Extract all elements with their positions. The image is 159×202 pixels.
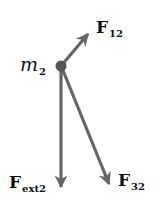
- mass-symbol: m: [20, 53, 38, 75]
- force-label-f32: F32: [118, 172, 145, 189]
- mass-label: m2: [20, 55, 46, 74]
- force-symbol: F: [96, 17, 108, 37]
- force-symbol: F: [118, 170, 130, 190]
- force-arrow-f32: [62, 68, 109, 184]
- force-label-fext2: Fext2: [9, 174, 46, 191]
- force-subscript: 12: [109, 28, 123, 39]
- mass-point: [56, 61, 67, 72]
- force-subscript: ext2: [22, 183, 46, 194]
- force-subscript: 32: [131, 181, 145, 192]
- force-arrow-f12: [61, 34, 88, 66]
- force-symbol: F: [9, 172, 21, 192]
- mass-subscript: 2: [39, 66, 46, 77]
- force-label-f12: F12: [96, 19, 123, 36]
